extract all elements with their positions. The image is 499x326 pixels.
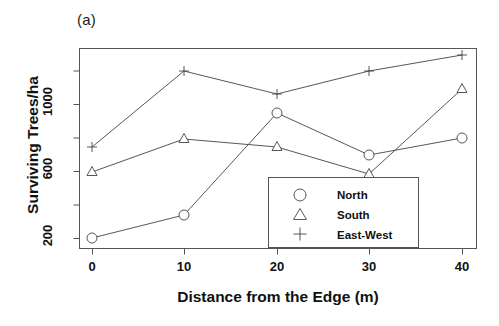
legend-circle-marker — [294, 189, 306, 201]
y-axis-ticks — [74, 71, 80, 239]
plot-area: North South East-West — [0, 0, 499, 326]
x-axis-ticks — [93, 249, 463, 255]
legend-label-north: North — [337, 189, 368, 201]
legend-label-south: South — [337, 209, 370, 221]
figure-chart-a: (a) Surviving Trees/ha Distance from the… — [0, 0, 499, 326]
legend-label-east-west: East-West — [337, 229, 393, 241]
legend: North South East-West — [269, 178, 419, 248]
